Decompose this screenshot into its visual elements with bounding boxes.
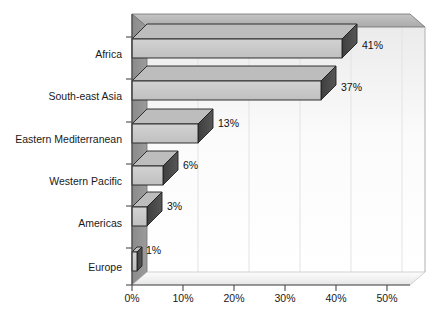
x-tick-label-0: 0%	[124, 292, 139, 304]
bar-top-face	[132, 24, 357, 39]
bar-front-face	[132, 166, 163, 185]
bar-front-face	[132, 81, 321, 100]
chart-svg: 1% 3% 6% 13% 37%	[0, 0, 437, 311]
x-tick-label-40: 40%	[325, 292, 346, 304]
category-label-south-east-asia: South-east Asia	[48, 90, 122, 102]
bar-eastern-mediterranean[interactable]	[132, 109, 213, 143]
bar-top-face	[132, 66, 336, 81]
category-label-eastern-mediterranean: Eastern Mediterranean	[15, 133, 122, 145]
bar-value-europe: 1%	[146, 244, 161, 256]
bar-africa[interactable]	[132, 24, 357, 58]
bar-front-face	[132, 39, 342, 58]
bar-south-east-asia[interactable]	[132, 66, 336, 100]
x-tick-label-10: 10%	[172, 292, 193, 304]
bar-value-eastern-mediterranean: 13%	[218, 117, 239, 129]
x-tick-label-30: 30%	[274, 292, 295, 304]
x-tick-label-20: 20%	[223, 292, 244, 304]
bar-front-face	[132, 252, 137, 271]
bar-front-face	[132, 124, 198, 143]
x-tick-labels: 0% 10% 20% 30% 40% 50%	[124, 292, 397, 304]
bar-value-americas: 3%	[167, 200, 182, 212]
bar-chart-3d: 1% 3% 6% 13% 37%	[0, 0, 437, 311]
bar-value-africa: 41%	[362, 39, 383, 51]
bar-europe[interactable]	[132, 247, 142, 271]
category-label-africa: Africa	[95, 48, 122, 60]
category-label-western-pacific: Western Pacific	[49, 175, 122, 187]
category-label-americas: Americas	[78, 217, 122, 229]
x-axis-ticks	[132, 285, 387, 291]
category-label-europe: Europe	[88, 261, 122, 273]
bar-value-western-pacific: 6%	[183, 159, 198, 171]
back-wall	[147, 27, 425, 272]
y-axis-ticks	[126, 37, 132, 285]
category-labels: Africa South-east Asia Eastern Mediterra…	[15, 48, 122, 273]
bar-front-face	[132, 207, 147, 226]
x-tick-label-50: 50%	[376, 292, 397, 304]
bar-value-south-east-asia: 37%	[341, 81, 362, 93]
floor-plane	[132, 272, 425, 285]
